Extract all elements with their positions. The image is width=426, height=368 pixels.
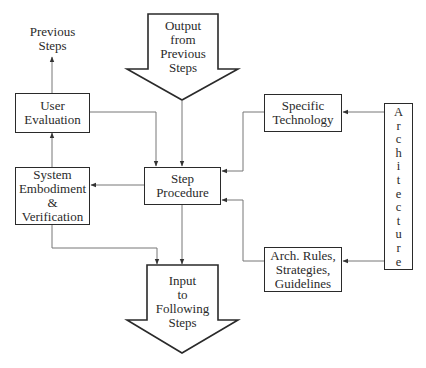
connector-system-to-input <box>52 225 157 264</box>
architecture-letter: u <box>395 228 401 242</box>
architecture-letter: r <box>396 120 400 134</box>
architecture-letter: h <box>395 147 401 161</box>
architecture-letter: e <box>396 188 402 202</box>
system-embodiment-label: System Embodiment & Verification <box>15 167 90 225</box>
architecture-letter: r <box>396 242 400 256</box>
architecture-letter: e <box>396 256 402 270</box>
architecture-letter: c <box>396 133 402 147</box>
connector-tech-to-step <box>222 112 264 171</box>
step-procedure-label: Step Procedure <box>144 167 221 205</box>
architecture-letter: c <box>396 201 402 215</box>
architecture-letter: i <box>397 160 400 174</box>
connector-rules-to-step <box>222 200 264 261</box>
specific-technology-label: Specific Technology <box>264 94 342 132</box>
connector-user-eval-to-step <box>90 112 156 166</box>
output-from-previous-label: Output from Previous Steps <box>148 16 218 78</box>
input-to-following-label: Input to Following Steps <box>147 272 218 332</box>
architecture-letter: A <box>394 106 403 120</box>
architecture-label: A r c h i t e c t u r e <box>384 106 413 268</box>
arch-rules-label: Arch. Rules, Strategies, Guidelines <box>264 247 342 292</box>
previous-steps-label: Previous Steps <box>15 24 90 54</box>
architecture-letter: t <box>397 215 400 229</box>
architecture-letter: t <box>397 174 400 188</box>
user-evaluation-label: User Evaluation <box>15 93 90 133</box>
